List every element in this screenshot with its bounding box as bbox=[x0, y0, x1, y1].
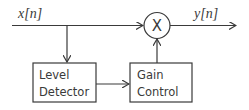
level-detector-label-line2: Detector bbox=[39, 85, 89, 99]
gain-control-label-line2: Control bbox=[137, 85, 179, 99]
level-detector-label-line1: Level bbox=[39, 68, 69, 82]
level-detector-block: Level Detector bbox=[33, 63, 96, 102]
gain-control-label-line1: Gain bbox=[137, 68, 163, 82]
multiplier-node: X bbox=[144, 13, 170, 39]
multiplier-symbol: X bbox=[152, 17, 162, 35]
block-diagram: x[n] X y[n] Level Detector Gain Control bbox=[0, 0, 249, 110]
output-signal-label: y[n] bbox=[192, 6, 218, 21]
input-signal-label: x[n] bbox=[17, 6, 42, 21]
gain-control-block: Gain Control bbox=[130, 63, 192, 102]
